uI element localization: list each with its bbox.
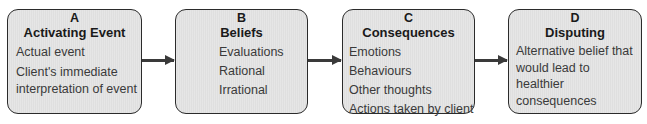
box-activating-event: A Activating Event Actual event Client's… (7, 9, 142, 114)
arrow-right-icon (142, 59, 174, 62)
box-item: Evaluations (219, 43, 307, 62)
box-items: Emotions Behaviours Other thoughts Actio… (343, 43, 474, 119)
box-item: Actual event (16, 43, 141, 62)
box-letter: C (343, 11, 474, 25)
box-disputing: D Disputing Alternative belief that woul… (508, 9, 642, 114)
arrow-right-icon (475, 59, 507, 62)
box-title: Activating Event (8, 25, 141, 41)
box-items: Actual event Client's immediate interpre… (8, 43, 141, 97)
box-item: Irrational (219, 81, 307, 100)
box-item: Emotions (349, 43, 474, 62)
box-item: Actions taken by client (349, 100, 474, 119)
box-letter: A (8, 11, 141, 25)
box-title: Disputing (509, 25, 641, 41)
box-item: Other thoughts (349, 81, 474, 100)
arrow-right-icon (308, 59, 341, 62)
box-beliefs: B Beliefs Evaluations Rational Irrationa… (175, 9, 308, 114)
box-letter: D (509, 11, 641, 25)
box-title: Consequences (343, 25, 474, 41)
box-item: Client's immediate interpretation of eve… (16, 64, 141, 97)
box-items: Alternative belief that would lead to he… (509, 43, 641, 109)
box-title: Beliefs (176, 25, 307, 41)
box-item: Behaviours (349, 62, 474, 81)
box-letter: B (176, 11, 307, 25)
box-item: Rational (219, 62, 307, 81)
box-item: Alternative belief that would lead to he… (516, 43, 637, 109)
box-consequences: C Consequences Emotions Behaviours Other… (342, 9, 475, 114)
box-items: Evaluations Rational Irrational (176, 43, 307, 100)
